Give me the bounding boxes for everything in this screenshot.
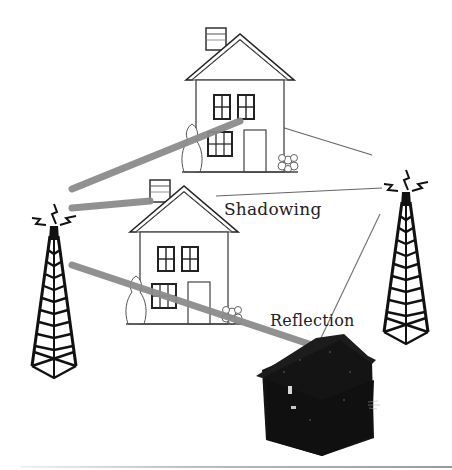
- house-top: [182, 28, 298, 173]
- reflection-label: Reflection: [270, 311, 354, 330]
- propagation-diagram: Shadowing Reflection: [0, 0, 452, 470]
- shadowing-label: Shadowing: [224, 199, 321, 219]
- tower-right-receiver: [384, 170, 428, 344]
- house-dark: [256, 334, 380, 456]
- bottom-divider: [20, 466, 452, 468]
- tower-left-transmitter: [32, 204, 76, 378]
